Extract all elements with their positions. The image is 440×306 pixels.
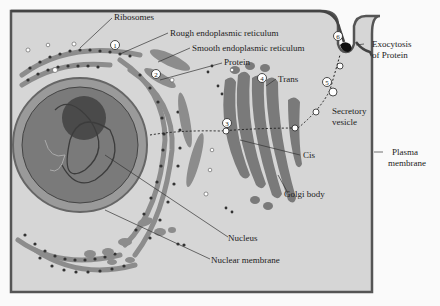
label-nuclear-membrane: Nuclear membrane <box>211 255 280 265</box>
label-exocytosis-1: Exocytosis <box>372 39 412 49</box>
svg-text:5: 5 <box>325 79 329 87</box>
svg-text:3: 3 <box>225 120 229 128</box>
label-protein: Protein <box>224 57 250 67</box>
label-rough-er: Rough endoplasmic reticulum <box>170 28 278 38</box>
label-cis: Cis <box>303 150 315 160</box>
label-trans: Trans <box>278 74 298 84</box>
label-golgi: Golgi body <box>284 189 325 199</box>
label-exocytosis-2: of Protein <box>372 50 408 60</box>
cell-diagram: 123456 Ribosomes Rough endoplasmic retic… <box>0 0 440 306</box>
nucleus <box>13 78 147 212</box>
label-smooth-er: Smooth endoplasmic reticulum <box>192 43 304 53</box>
svg-text:6: 6 <box>336 33 340 41</box>
label-plasma-1: Plasma <box>392 147 418 157</box>
svg-text:2: 2 <box>154 71 158 79</box>
label-secretory-1: Secretory <box>332 106 366 116</box>
label-secretory-2: vesicle <box>332 117 357 127</box>
label-ribosomes: Ribosomes <box>114 12 154 22</box>
svg-text:4: 4 <box>260 75 264 83</box>
svg-text:1: 1 <box>113 42 117 50</box>
label-plasma-2: membrane <box>388 158 426 168</box>
label-nucleus: Nucleus <box>228 233 258 243</box>
